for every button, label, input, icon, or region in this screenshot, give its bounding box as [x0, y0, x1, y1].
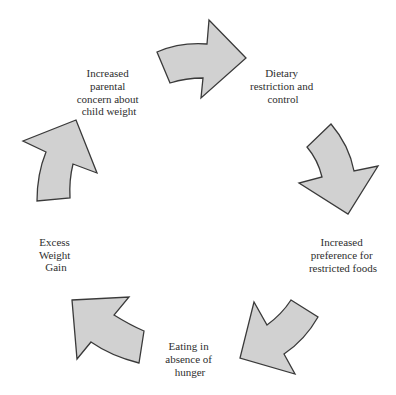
- arrow-eating-to-weight-gain-icon: [72, 297, 144, 363]
- arrow-concern-to-restriction-icon: [157, 20, 246, 98]
- node-dietary-restriction: Dietary restriction and control: [250, 67, 316, 105]
- node-eating-absence-hunger: Eating in absence of hunger: [165, 340, 214, 378]
- arrow-weight-gain-to-concern-icon: [23, 120, 97, 201]
- node-parental-concern: Increased parental concern about child w…: [77, 67, 142, 117]
- node-preference-restricted: Increased preference for restricted food…: [309, 236, 377, 274]
- cycle-diagram: Increased parental concern about child w…: [0, 0, 396, 395]
- arrow-preference-to-eating-icon: [240, 300, 318, 374]
- node-excess-weight-gain: Excess Weight Gain: [39, 236, 73, 273]
- arrow-restriction-to-preference-icon: [299, 124, 378, 214]
